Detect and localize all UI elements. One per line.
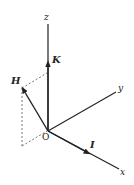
dashed-h-to-z	[22, 73, 47, 88]
vector-h	[23, 89, 48, 131]
y-axis-label: y	[118, 84, 123, 93]
origin-label: O	[42, 133, 49, 142]
vector-k-label: K	[52, 55, 61, 65]
y-axis	[48, 92, 116, 131]
vector-i-label: I	[90, 140, 95, 150]
vector-h-label: H	[11, 76, 20, 86]
x-axis-label: x	[120, 168, 125, 177]
vector-i	[48, 131, 88, 153]
diagram-canvas	[0, 0, 134, 185]
z-axis-label: z	[44, 13, 49, 22]
